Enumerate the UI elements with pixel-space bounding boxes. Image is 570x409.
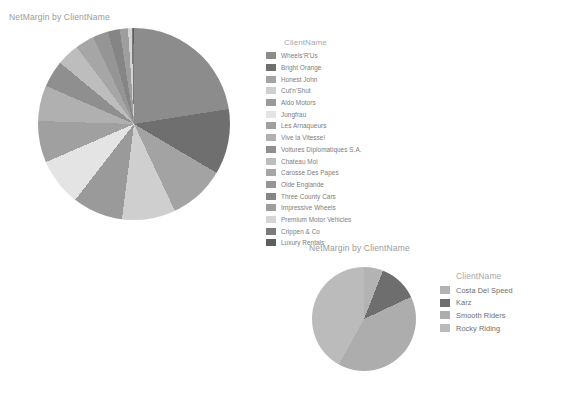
legend-swatch-icon [266, 204, 276, 211]
legend-swatch-icon [266, 134, 276, 141]
legend-item[interactable]: Carosse Des Papes [266, 167, 362, 179]
legend-item-label: Karz [456, 298, 471, 307]
chart-netmargin-by-clientname-1: NetMargin by ClientName ClientName Wheel… [0, 12, 360, 242]
legend-item-label: Three County Cars [281, 193, 336, 200]
legend-item[interactable]: Smooth Riders [440, 309, 513, 322]
legend-item-label: Honest John [281, 76, 317, 83]
legend-item[interactable]: Wheels'R'Us [266, 50, 362, 62]
legend-item-label: Smooth Riders [456, 311, 506, 320]
legend-items: Wheels'R'UsBright OrangeHonest JohnCut'n… [266, 50, 362, 249]
legend-title: ClientName [284, 38, 362, 47]
legend-item-label: Vive la Vitesse! [281, 134, 325, 141]
legend-item[interactable]: Voitures Diplomatiques S.A. [266, 144, 362, 156]
legend-item[interactable]: Premium Motor Vehicles [266, 214, 362, 226]
legend-item-label: Premium Motor Vehicles [281, 216, 351, 223]
legend-item[interactable]: Karz [440, 297, 513, 310]
legend-item[interactable]: Chateau Moi [266, 155, 362, 167]
legend-item-label: Olde Englande [281, 181, 324, 188]
legend-item-label: Wheels'R'Us [281, 52, 318, 59]
legend-swatch-icon [266, 228, 276, 235]
legend-item-label: Impressive Wheels [281, 204, 336, 211]
legend-item[interactable]: Les Arnaqueurs [266, 120, 362, 132]
legend-item-label: Bright Orange [281, 64, 321, 71]
legend-item[interactable]: Rocky Riding [440, 322, 513, 335]
legend-item[interactable]: Crippen & Co [266, 225, 362, 237]
legend-items: Costa Del SpeedKarzSmooth RidersRocky Ri… [440, 284, 513, 334]
legend-swatch-icon [440, 286, 450, 294]
chart-netmargin-by-clientname-2: NetMargin by ClientName ClientName Costa… [280, 243, 570, 403]
legend-swatch-icon [440, 324, 450, 332]
legend-1: ClientName Wheels'R'UsBright OrangeHones… [266, 38, 362, 249]
legend-item[interactable]: Olde Englande [266, 179, 362, 191]
legend-item[interactable]: Honest John [266, 73, 362, 85]
legend-swatch-icon [266, 146, 276, 153]
legend-swatch-icon [266, 181, 276, 188]
legend-2: ClientName Costa Del SpeedKarzSmooth Rid… [440, 271, 513, 334]
legend-item-label: Jungfrau [281, 111, 306, 118]
page-title-2: NetMargin by ClientName [309, 243, 570, 253]
legend-swatch-icon [266, 64, 276, 71]
legend-item[interactable]: Cut'n'Shut [266, 85, 362, 97]
legend-item[interactable]: Impressive Wheels [266, 202, 362, 214]
legend-title: ClientName [456, 271, 513, 281]
legend-swatch-icon [266, 169, 276, 176]
legend-item-label: Carosse Des Papes [281, 169, 339, 176]
legend-swatch-icon [266, 122, 276, 129]
legend-swatch-icon [266, 216, 276, 223]
legend-swatch-icon [266, 239, 276, 246]
legend-item-label: Rocky Riding [456, 324, 500, 333]
legend-item[interactable]: Bright Orange [266, 62, 362, 74]
legend-swatch-icon [266, 158, 276, 165]
legend-item-label: Crippen & Co [281, 228, 320, 235]
legend-item[interactable]: Aldo Motors [266, 97, 362, 109]
legend-item[interactable]: Jungfrau [266, 108, 362, 120]
legend-swatch-icon [266, 193, 276, 200]
legend-swatch-icon [266, 52, 276, 59]
legend-swatch-icon [440, 311, 450, 319]
legend-item-label: Cut'n'Shut [281, 87, 311, 94]
legend-item-label: Costa Del Speed [456, 286, 513, 295]
legend-swatch-icon [266, 111, 276, 118]
legend-item-label: Chateau Moi [281, 158, 318, 165]
legend-swatch-icon [266, 87, 276, 94]
legend-swatch-icon [440, 299, 450, 307]
legend-item[interactable]: Vive la Vitesse! [266, 132, 362, 144]
legend-item[interactable]: Costa Del Speed [440, 284, 513, 297]
pie-chart-1[interactable] [38, 28, 230, 220]
legend-item-label: Voitures Diplomatiques S.A. [281, 146, 362, 153]
legend-swatch-icon [266, 99, 276, 106]
page-title: NetMargin by ClientName [9, 12, 360, 22]
legend-item-label: Aldo Motors [281, 99, 316, 106]
pie-chart-2[interactable] [312, 267, 416, 371]
legend-item[interactable]: Three County Cars [266, 190, 362, 202]
legend-swatch-icon [266, 76, 276, 83]
legend-item-label: Les Arnaqueurs [281, 122, 326, 129]
